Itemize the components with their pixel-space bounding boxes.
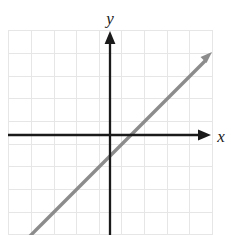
plotted-line bbox=[24, 60, 206, 235]
y-axis-label: y bbox=[104, 9, 114, 28]
x-axis-label: x bbox=[216, 127, 225, 146]
graph-canvas: y x bbox=[0, 0, 231, 235]
coordinate-plane-figure: y x bbox=[0, 0, 231, 235]
x-axis-arrowhead-icon bbox=[198, 130, 211, 141]
plotted-line-group bbox=[24, 52, 212, 235]
axes-group bbox=[8, 31, 211, 235]
y-axis-arrowhead-icon bbox=[105, 31, 116, 44]
